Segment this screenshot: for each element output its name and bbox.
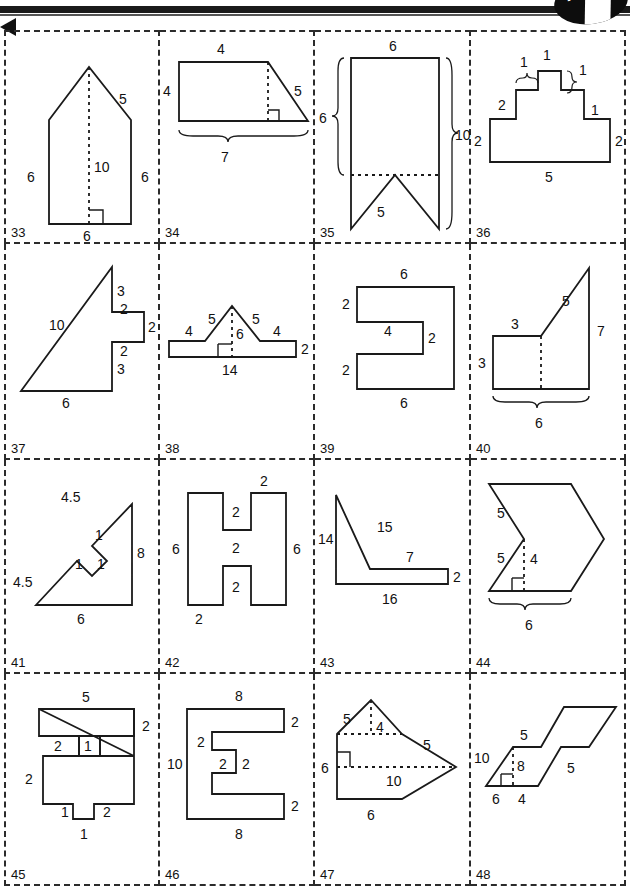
label-34-base: 7 [221, 149, 229, 165]
label-41-right: 8 [137, 545, 145, 561]
label-35-left: 6 [319, 110, 327, 126]
label-43-ledge: 7 [406, 549, 414, 565]
label-46-inner-upper: 2 [197, 734, 205, 750]
label-45-lower-right: 2 [103, 804, 111, 820]
figure-35: 6 6 10 5 [315, 32, 471, 246]
label-39-inner: 4 [384, 323, 392, 339]
problem-number-33: 33 [11, 225, 25, 240]
label-41-notch-c: 1 [97, 556, 105, 572]
label-37-step-c: 2 [120, 343, 128, 359]
label-39-bottom: 6 [400, 395, 408, 411]
figure-46: 8 2 2 2 2 10 2 8 [160, 674, 315, 886]
label-41-base: 6 [77, 611, 85, 627]
problem-cell-39: 6 2 4 2 2 6 39 [315, 244, 471, 460]
problem-cell-36: 1 1 1 2 1 2 2 5 36 [471, 30, 626, 244]
problem-number-41: 41 [11, 655, 25, 670]
label-43-base: 16 [382, 591, 398, 607]
label-38-right-slant: 5 [252, 311, 260, 327]
label-33-right: 6 [141, 169, 149, 185]
problem-number-44: 44 [476, 655, 490, 670]
figure-45: 5 2 2 1 2 1 2 1 [6, 674, 162, 886]
label-45-inner-right: 1 [84, 738, 92, 754]
label-34-top: 4 [217, 41, 225, 57]
problem-number-46: 46 [165, 867, 179, 882]
figure-38: 5 5 4 4 6 2 14 [160, 244, 315, 460]
label-39-top: 6 [400, 266, 408, 282]
label-36-left-lower: 2 [474, 133, 482, 149]
label-46-bottom: 8 [235, 826, 243, 842]
label-46-bottom-right: 2 [291, 798, 299, 814]
label-45-top: 5 [82, 689, 90, 705]
label-48-base-b: 4 [518, 791, 526, 807]
label-47-apex-height: 4 [376, 719, 384, 735]
page-header-rule [0, 6, 630, 13]
label-44-upper-slant: 5 [497, 505, 505, 521]
label-36-left-step: 1 [520, 54, 528, 70]
label-35-top: 6 [389, 38, 397, 54]
label-45-left: 2 [25, 771, 33, 787]
figure-33: 5 10 6 6 6 [6, 32, 162, 246]
label-47-width: 10 [386, 773, 402, 789]
badge-number-left: 4 [559, 0, 573, 7]
label-44-base: 6 [525, 617, 533, 633]
problem-number-35: 35 [320, 225, 334, 240]
worksheet-page: 4 3 5 10 6 6 6 33 4 [0, 0, 630, 889]
label-42-bottom-left: 2 [195, 611, 203, 627]
label-33-height: 10 [94, 159, 110, 175]
label-39-lower-left: 2 [342, 362, 350, 378]
label-35-right: 10 [455, 127, 471, 143]
label-47-right-slant: 5 [423, 737, 431, 753]
label-34-slant: 5 [294, 83, 302, 99]
problem-cell-45: 5 2 2 1 2 1 2 1 45 [4, 674, 160, 886]
problem-number-47: 47 [320, 867, 334, 882]
label-48-height: 8 [517, 758, 525, 774]
label-46-left: 10 [167, 756, 183, 772]
problem-number-37: 37 [11, 441, 25, 456]
label-41-upper-hyp: 4.5 [61, 489, 81, 505]
label-47-left: 6 [321, 760, 329, 776]
label-42-upper-inner: 2 [232, 504, 240, 520]
problem-grid: 5 10 6 6 6 33 4 4 5 7 34 [4, 30, 626, 886]
label-48-upper-step: 5 [520, 727, 528, 743]
figure-36: 1 1 1 2 1 2 2 5 [471, 32, 626, 246]
label-43-left: 14 [318, 531, 334, 547]
label-37-lower-right: 3 [117, 361, 125, 377]
label-39-upper-left: 2 [342, 296, 350, 312]
label-46-top-right: 2 [291, 714, 299, 730]
label-40-top: 3 [511, 316, 519, 332]
figure-41: 4.5 1 1 1 8 4.5 6 [6, 460, 162, 674]
page-header-rule-thin [0, 14, 630, 16]
problem-number-40: 40 [476, 441, 490, 456]
label-45-tab-bottom: 1 [80, 826, 88, 842]
label-37-base: 6 [62, 395, 70, 411]
label-36-top: 1 [543, 47, 551, 63]
label-40-right: 7 [597, 323, 605, 339]
label-38-right: 2 [301, 341, 309, 357]
label-33-left: 6 [27, 169, 35, 185]
problem-cell-40: 5 3 7 3 6 40 [471, 244, 626, 460]
label-40-left: 3 [478, 355, 486, 371]
label-37-upper-right: 3 [117, 283, 125, 299]
problem-number-42: 42 [165, 655, 179, 670]
label-48-left-slant: 10 [474, 750, 490, 766]
label-45-upper-right: 2 [142, 718, 150, 734]
label-38-right-flat: 4 [273, 323, 281, 339]
problem-cell-42: 2 2 2 6 6 2 2 42 [160, 460, 315, 674]
problem-number-43: 43 [320, 655, 334, 670]
figure-37: 3 2 10 2 2 3 6 [6, 244, 162, 460]
label-47-base: 6 [367, 807, 375, 823]
label-36-right-mid: 1 [591, 102, 599, 118]
label-37-hyp: 10 [49, 317, 65, 333]
problem-number-38: 38 [165, 441, 179, 456]
problem-number-39: 39 [320, 441, 334, 456]
problem-number-48: 48 [476, 867, 490, 882]
figure-47: 5 4 5 6 10 6 [315, 674, 471, 886]
label-45-inner-left: 2 [54, 738, 62, 754]
label-37-step-a: 2 [120, 301, 128, 317]
figure-48: 5 5 10 8 6 4 [471, 674, 626, 886]
label-36-left-upper: 2 [498, 97, 506, 113]
label-39-inner-right: 2 [428, 330, 436, 346]
problem-cell-33: 5 10 6 6 6 33 [4, 30, 160, 244]
problem-cell-44: 5 5 4 6 44 [471, 460, 626, 674]
problem-cell-48: 5 5 10 8 6 4 48 [471, 674, 626, 886]
